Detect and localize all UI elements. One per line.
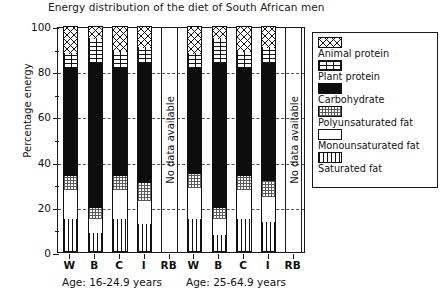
bar-segment-animal-protein (213, 26, 226, 39)
bar-segment-monounsaturated-fat (113, 190, 126, 219)
chart-page: Energy distribution of the diet of South… (0, 0, 441, 299)
bar-segment-monounsaturated-fat (64, 190, 77, 219)
stacked-bar-c-g1[interactable] (236, 26, 251, 252)
legend-item-carbohydrate[interactable]: Carbohydrate (318, 83, 432, 105)
bar-segment-polyunsaturated-fat (89, 208, 102, 219)
legend-swatch-icon-carbohydrate (318, 83, 342, 94)
bar-segment-plant-protein (113, 52, 126, 68)
bar-segment-carbohydrate (64, 68, 77, 176)
bar-segment-carbohydrate (113, 68, 126, 176)
no-data-text: No data available (288, 96, 299, 184)
bar-segment-monounsaturated-fat (213, 219, 226, 235)
bar-segment-monounsaturated-fat (188, 188, 201, 220)
bar-segment-monounsaturated-fat (89, 219, 102, 233)
legend-swatch-icon-animal-protein (318, 37, 342, 48)
stacked-bar-i-g0[interactable] (137, 26, 152, 252)
legend-swatch-icon-polyunsaturated-fat (318, 106, 342, 117)
bar-segment-animal-protein (188, 26, 201, 54)
bar-segment-saturated-fat (138, 224, 151, 251)
y-tick-label-0: 0 (17, 248, 51, 258)
bar-slot-c-g1 (232, 28, 257, 252)
no-data-column-rb-g0: No data available (161, 28, 178, 252)
bar-segment-plant-protein (237, 52, 250, 68)
legend-item-polyunsaturated-fat[interactable]: Polyunsaturated fat (318, 106, 432, 128)
y-tick-label-60: 60 (17, 112, 51, 122)
legend-item-monounsaturated-fat[interactable]: Monounsaturated fat (318, 129, 432, 151)
bar-slot-rb-g0: No data available (157, 28, 182, 252)
bar-segment-animal-protein (138, 26, 151, 48)
bar-segment-carbohydrate (237, 68, 250, 176)
legend-label: Monounsaturated fat (318, 140, 432, 151)
bar-slot-b-g0 (83, 28, 108, 252)
bar-group-0: No data available (58, 28, 182, 252)
stacked-bar-w-g1[interactable] (187, 26, 202, 252)
legend-label: Polyunsaturated fat (318, 117, 432, 128)
bar-segment-saturated-fat (64, 219, 77, 251)
stacked-bar-b-g0[interactable] (88, 26, 103, 252)
bar-slot-rb-g1: No data available (281, 28, 306, 252)
bar-segment-saturated-fat (113, 219, 126, 251)
bar-slot-b-g1 (207, 28, 232, 252)
bar-segment-monounsaturated-fat (262, 197, 275, 222)
y-tick-label-40: 40 (17, 158, 51, 168)
bar-segment-plant-protein (64, 54, 77, 68)
bar-segment-animal-protein (262, 26, 275, 48)
bar-slot-i-g0 (132, 28, 157, 252)
no-data-text: No data available (164, 96, 175, 184)
group-label-0: Age: 16-24.9 years (62, 276, 162, 288)
bar-segment-polyunsaturated-fat (262, 181, 275, 197)
bar-segment-animal-protein (113, 26, 126, 52)
bar-segment-polyunsaturated-fat (138, 183, 151, 201)
bar-slot-c-g0 (108, 28, 133, 252)
bar-segment-polyunsaturated-fat (64, 176, 77, 190)
stacked-bar-w-g0[interactable] (63, 26, 78, 252)
bar-segment-plant-protein (138, 48, 151, 64)
legend-label: Animal protein (318, 48, 432, 59)
bar-segment-polyunsaturated-fat (188, 174, 201, 188)
bar-segment-saturated-fat (188, 219, 201, 251)
bar-segment-monounsaturated-fat (138, 201, 151, 224)
bar-segment-saturated-fat (262, 222, 275, 251)
bar-segment-polyunsaturated-fat (113, 176, 126, 190)
legend-label: Saturated fat (318, 163, 432, 174)
bar-slot-w-g1 (182, 28, 207, 252)
bar-segment-plant-protein (188, 54, 201, 68)
chart-legend: Animal proteinPlant proteinCarbohydrateP… (312, 32, 438, 188)
bar-segment-monounsaturated-fat (237, 190, 250, 219)
bar-slot-w-g0 (58, 28, 83, 252)
bar-slot-i-g1 (256, 28, 281, 252)
x-axis: WBCIRBWBCIRB (57, 254, 305, 272)
y-tick-label-80: 80 (17, 67, 51, 77)
bar-segment-animal-protein (64, 26, 77, 54)
legend-item-saturated-fat[interactable]: Saturated fat (318, 152, 432, 174)
bar-segment-animal-protein (89, 26, 102, 39)
legend-label: Plant protein (318, 71, 432, 82)
bar-segment-carbohydrate (89, 63, 102, 208)
bar-segment-saturated-fat (213, 235, 226, 251)
group-label-1: Age: 25-64.9 years (186, 276, 286, 288)
stacked-bar-b-g1[interactable] (212, 26, 227, 252)
bar-segment-plant-protein (89, 39, 102, 64)
plot-area: No data availableNo data available (57, 27, 305, 253)
stacked-bar-i-g1[interactable] (261, 26, 276, 252)
no-data-column-rb-g1: No data available (285, 28, 302, 252)
legend-item-animal-protein[interactable]: Animal protein (318, 37, 432, 59)
bar-segment-polyunsaturated-fat (213, 208, 226, 219)
y-tick-label-100: 100 (17, 22, 51, 32)
bar-segment-plant-protein (213, 39, 226, 64)
bar-segment-carbohydrate (213, 63, 226, 208)
y-axis-tick-labels: 020406080100 (16, 22, 56, 258)
stacked-bar-c-g0[interactable] (112, 26, 127, 252)
bar-segment-carbohydrate (262, 63, 275, 181)
y-tick-label-20: 20 (17, 203, 51, 213)
bar-segment-animal-protein (237, 26, 250, 52)
legend-swatch-icon-plant-protein (318, 60, 342, 71)
bar-segment-saturated-fat (89, 233, 102, 251)
bar-segment-carbohydrate (138, 63, 151, 183)
legend-swatch-icon-monounsaturated-fat (318, 129, 342, 140)
legend-item-plant-protein[interactable]: Plant protein (318, 60, 432, 82)
bar-segment-carbohydrate (188, 68, 201, 174)
legend-swatch-icon-saturated-fat (318, 152, 342, 163)
bar-segment-plant-protein (262, 48, 275, 64)
bar-group-1: No data available (182, 28, 306, 252)
